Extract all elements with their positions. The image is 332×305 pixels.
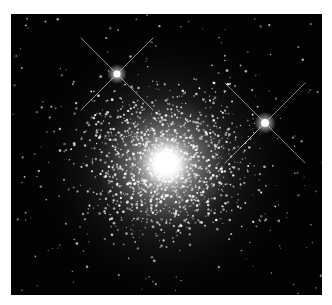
star-cluster-image xyxy=(11,14,322,295)
cropped-caption-text xyxy=(150,0,260,4)
star-cluster-photo xyxy=(11,14,322,295)
